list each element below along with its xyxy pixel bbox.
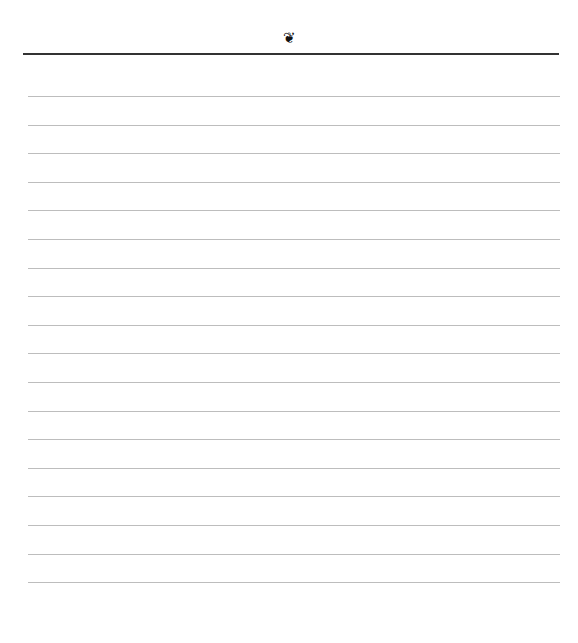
ruled-line	[28, 382, 560, 383]
ruled-paper-page: ❦	[0, 0, 578, 643]
ruled-line	[28, 182, 560, 183]
ruled-line	[28, 125, 560, 126]
ruled-line	[28, 268, 560, 269]
ruled-line	[28, 554, 560, 555]
ruled-line	[28, 582, 560, 583]
header-rule	[23, 53, 559, 55]
ruled-lines	[28, 96, 560, 611]
fleuron-icon: ❦	[0, 30, 578, 46]
ruled-line	[28, 468, 560, 469]
ruled-line	[28, 296, 560, 297]
ruled-line	[28, 353, 560, 354]
ruled-line	[28, 411, 560, 412]
ruled-line	[28, 439, 560, 440]
ruled-line	[28, 239, 560, 240]
ruled-line	[28, 525, 560, 526]
ruled-line	[28, 325, 560, 326]
ruled-line	[28, 210, 560, 211]
ruled-line	[28, 153, 560, 154]
ruled-line	[28, 496, 560, 497]
ruled-line	[28, 96, 560, 97]
